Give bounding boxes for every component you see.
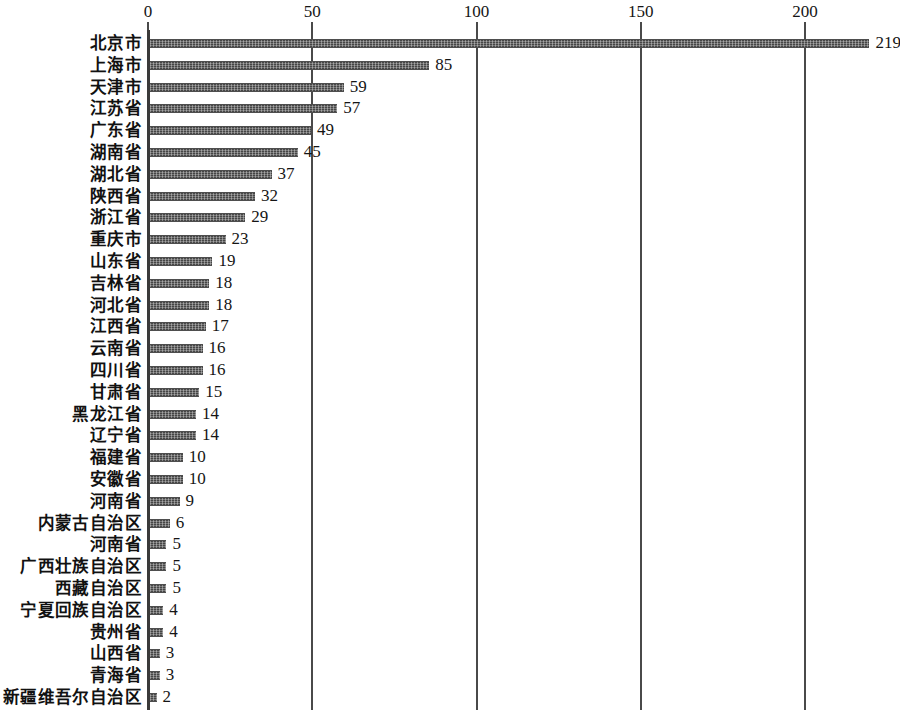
category-label: 天津市 xyxy=(90,77,142,99)
bar xyxy=(150,366,203,375)
bar xyxy=(150,606,163,615)
category-label: 四川省 xyxy=(90,360,142,382)
bar-row: 内蒙古自治区6 xyxy=(0,513,900,535)
bar-row: 贵州省4 xyxy=(0,622,900,644)
bar-row: 吉林省18 xyxy=(0,273,900,295)
bar-value-label: 29 xyxy=(251,206,268,228)
bar-value-label: 14 xyxy=(202,403,219,425)
bar-row: 广东省49 xyxy=(0,120,900,142)
category-label: 上海市 xyxy=(90,55,142,77)
category-label: 江苏省 xyxy=(90,98,142,120)
bar-row: 山西省3 xyxy=(0,643,900,665)
bar xyxy=(150,628,163,637)
category-label: 青海省 xyxy=(90,665,142,687)
bar xyxy=(150,213,245,222)
bar-row: 浙江省29 xyxy=(0,207,900,229)
bar-value-label: 49 xyxy=(317,119,334,141)
bar-row: 河北省18 xyxy=(0,295,900,317)
category-label: 湖北省 xyxy=(90,164,142,186)
bar-row: 上海市85 xyxy=(0,55,900,77)
bar-row: 云南省16 xyxy=(0,338,900,360)
bar-row: 湖北省37 xyxy=(0,164,900,186)
bar xyxy=(150,497,180,506)
bar-value-label: 3 xyxy=(166,664,175,686)
category-label: 安徽省 xyxy=(90,469,142,491)
bar-row: 天津市59 xyxy=(0,77,900,99)
bar-row: 黑龙江省14 xyxy=(0,404,900,426)
bar xyxy=(150,83,344,92)
bar xyxy=(150,61,429,70)
category-label: 福建省 xyxy=(90,447,142,469)
bar-row: 青海省3 xyxy=(0,665,900,687)
category-label: 云南省 xyxy=(90,338,142,360)
category-label: 河南省 xyxy=(90,534,142,556)
category-label: 贵州省 xyxy=(90,622,142,644)
bar-row: 新疆维吾尔自治区2 xyxy=(0,687,900,709)
bar xyxy=(150,431,196,440)
bar-row: 福建省10 xyxy=(0,447,900,469)
bar-row: 江西省17 xyxy=(0,316,900,338)
bar-row: 河南省5 xyxy=(0,534,900,556)
category-label: 宁夏回族自治区 xyxy=(20,600,142,622)
bar-value-label: 4 xyxy=(169,599,178,621)
category-label: 辽宁省 xyxy=(90,425,142,447)
bar-row: 北京市219 xyxy=(0,33,900,55)
bar-value-label: 37 xyxy=(278,163,295,185)
bar-value-label: 17 xyxy=(212,315,229,337)
bar-value-label: 57 xyxy=(343,97,360,119)
bar-value-label: 18 xyxy=(215,294,232,316)
bar xyxy=(150,104,337,113)
bar xyxy=(150,279,209,288)
bar-value-label: 16 xyxy=(209,359,226,381)
bar xyxy=(150,475,183,484)
category-label: 湖南省 xyxy=(90,142,142,164)
x-axis-tick-label-150: 150 xyxy=(628,2,654,22)
bar-value-label: 9 xyxy=(186,490,195,512)
x-axis-tick-label-100: 100 xyxy=(464,2,490,22)
category-label: 西藏自治区 xyxy=(55,578,142,600)
bar-chart: 050100150200 北京市219上海市85天津市59江苏省57广东省49湖… xyxy=(0,0,900,710)
bar xyxy=(150,344,203,353)
bar-row: 重庆市23 xyxy=(0,229,900,251)
bar xyxy=(150,322,206,331)
bar-row: 安徽省10 xyxy=(0,469,900,491)
bar xyxy=(150,693,157,702)
bar xyxy=(150,126,311,135)
bar-value-label: 10 xyxy=(189,446,206,468)
category-label: 江西省 xyxy=(90,316,142,338)
bar-value-label: 18 xyxy=(215,272,232,294)
bar-row: 宁夏回族自治区4 xyxy=(0,600,900,622)
bar-value-label: 45 xyxy=(304,141,321,163)
bar-value-label: 10 xyxy=(189,468,206,490)
category-label: 山东省 xyxy=(90,251,142,273)
bar-row: 西藏自治区5 xyxy=(0,578,900,600)
bar-value-label: 32 xyxy=(261,185,278,207)
bar-row: 甘肃省15 xyxy=(0,382,900,404)
bar xyxy=(150,148,298,157)
x-axis-tick-label-0: 0 xyxy=(144,2,153,22)
bar xyxy=(150,519,170,528)
bar-value-label: 59 xyxy=(350,76,367,98)
x-axis-tick-label-200: 200 xyxy=(792,2,818,22)
bar-row: 陕西省32 xyxy=(0,186,900,208)
bar xyxy=(150,562,166,571)
bar-value-label: 5 xyxy=(172,555,181,577)
bar-row: 山东省19 xyxy=(0,251,900,273)
category-label: 陕西省 xyxy=(90,186,142,208)
category-label: 甘肃省 xyxy=(90,382,142,404)
bar xyxy=(150,584,166,593)
bar xyxy=(150,453,183,462)
bar-value-label: 14 xyxy=(202,424,219,446)
bar xyxy=(150,170,272,179)
category-label: 吉林省 xyxy=(90,273,142,295)
category-label: 山西省 xyxy=(90,643,142,665)
bar-row: 湖南省45 xyxy=(0,142,900,164)
bar-row: 四川省16 xyxy=(0,360,900,382)
bar xyxy=(150,301,209,310)
bar-value-label: 15 xyxy=(205,381,222,403)
bar-row: 河南省9 xyxy=(0,491,900,513)
bar xyxy=(150,235,226,244)
bar-value-label: 23 xyxy=(232,228,249,250)
category-label: 河北省 xyxy=(90,295,142,317)
bar xyxy=(150,540,166,549)
